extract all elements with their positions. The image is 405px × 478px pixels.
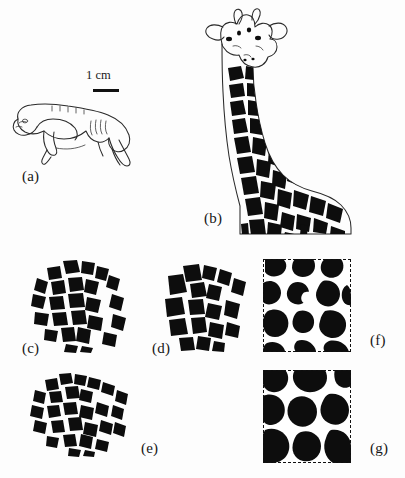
panel-e-patch-cluster	[25, 372, 140, 457]
panel-label-c: (c)	[22, 340, 39, 357]
simulation-blobs-f-svg	[263, 259, 351, 352]
panel-c-patch-cluster	[25, 258, 140, 353]
panel-label-b: (b)	[204, 210, 222, 227]
panel-label-d: (d)	[152, 340, 170, 357]
panel-b-adult-giraffe	[196, 6, 376, 238]
figure-root: 1 cm (a)	[0, 0, 405, 478]
panel-d-patch-cluster	[155, 262, 255, 352]
patch-cluster-c-svg	[25, 258, 140, 353]
panel-label-f: (f)	[370, 332, 386, 349]
simulation-blobs-g-svg	[263, 370, 351, 463]
giraffe-reticulated-patches	[228, 66, 345, 235]
panel-label-e: (e)	[141, 440, 158, 457]
panel-g-simulation-domain	[263, 370, 351, 463]
scale-bar-label: 1 cm	[86, 68, 111, 83]
adult-giraffe-svg	[196, 6, 376, 238]
panel-label-g: (g)	[370, 440, 388, 457]
panel-f-simulation-domain	[263, 259, 351, 352]
patch-cluster-e-svg	[25, 372, 140, 457]
giraffe-head-outline	[206, 9, 287, 67]
scale-bar-line	[93, 89, 119, 92]
embryo-outline-svg	[10, 95, 140, 173]
panel-label-a: (a)	[22, 168, 39, 185]
patch-cluster-d-svg	[155, 262, 255, 352]
panel-a-embryo-drawing	[10, 95, 140, 170]
